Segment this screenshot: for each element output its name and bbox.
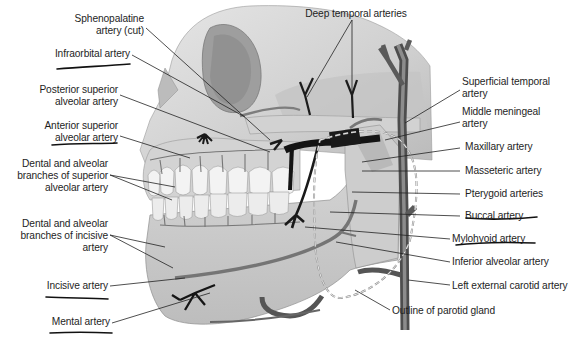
label-masseteric-artery: Masseteric artery bbox=[465, 165, 541, 177]
label-deep-temporal-arteries: Deep temporal arteries bbox=[296, 8, 416, 20]
label-dental-alveolar-branches-incisive: Dental and alveolarbranches of incisivea… bbox=[0, 218, 108, 254]
label-maxillary-artery: Maxillary artery bbox=[465, 141, 532, 153]
label-dental-alveolar-branches-superior: Dental and alveolarbranches of superiora… bbox=[0, 158, 108, 194]
label-superficial-temporal-artery: Superficial temporalartery bbox=[462, 76, 550, 100]
label-middle-meningeal-artery: Middle meningealartery bbox=[462, 106, 540, 130]
label-posterior-superior-alveolar-artery: Posterior superioralveolar artery bbox=[10, 84, 118, 108]
anatomy-figure: Sphenopalatineartery (cut) Infraorbital … bbox=[0, 0, 585, 339]
label-mylohyoid-artery: Mylohyoid artery bbox=[452, 233, 525, 245]
label-buccal-artery: Buccal artery bbox=[465, 210, 523, 222]
label-anterior-superior-alveolar-artery: Anterior superioralveolar artery bbox=[10, 120, 118, 144]
label-left-external-carotid-artery: Left external carotid artery bbox=[452, 280, 568, 292]
label-incisive-artery: Incisive artery bbox=[10, 280, 108, 292]
label-sphenopalatine-artery: Sphenopalatineartery (cut) bbox=[40, 13, 144, 37]
label-infraorbital-artery: Infraorbital artery bbox=[20, 48, 130, 60]
label-mental-artery: Mental artery bbox=[10, 316, 110, 328]
label-inferior-alveolar-artery: Inferior alveolar artery bbox=[452, 256, 549, 268]
label-outline-of-parotid-gland: Outline of parotid gland bbox=[392, 305, 495, 317]
label-pterygoid-arteries: Pterygoid arteries bbox=[465, 188, 543, 200]
